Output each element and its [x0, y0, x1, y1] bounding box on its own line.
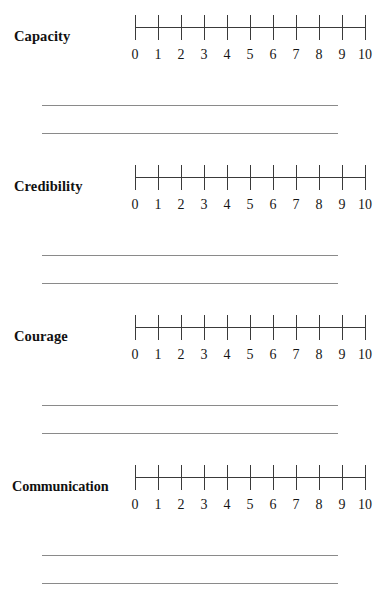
scale-ruler-capacity[interactable]	[135, 15, 367, 45]
ruler-tick-8[interactable]	[319, 165, 320, 190]
ruler-tick-6[interactable]	[273, 465, 274, 490]
ruler-tick-4[interactable]	[227, 15, 228, 40]
ruler-tick-7[interactable]	[296, 465, 297, 490]
ruler-tick-6[interactable]	[273, 165, 274, 190]
ruler-tick-3[interactable]	[204, 15, 205, 40]
ruler-tick-1[interactable]	[158, 315, 159, 340]
ruler-tick-3[interactable]	[204, 315, 205, 340]
ruler-tick-0[interactable]	[135, 165, 136, 190]
response-area-credibility[interactable]	[42, 238, 338, 294]
ruler-tick-10[interactable]	[365, 315, 366, 340]
ruler-tick-9[interactable]	[342, 315, 343, 340]
ruler-tick-2[interactable]	[181, 315, 182, 340]
scale-number-10: 10	[352, 347, 378, 363]
writing-line[interactable]	[42, 405, 338, 406]
ruler-tick-10[interactable]	[365, 165, 366, 190]
writing-line[interactable]	[42, 133, 338, 134]
writing-line[interactable]	[42, 105, 338, 106]
ruler-tick-0[interactable]	[135, 15, 136, 40]
ruler-tick-10[interactable]	[365, 465, 366, 490]
criterion-label-credibility: Credibility	[14, 174, 138, 198]
scale-numbers-courage: 0 1 2 3 4 5 6 7 8 9 10	[135, 347, 367, 367]
ruler-tick-4[interactable]	[227, 315, 228, 340]
writing-line[interactable]	[42, 583, 338, 584]
ruler-tick-6[interactable]	[273, 315, 274, 340]
ruler-tick-2[interactable]	[181, 465, 182, 490]
ruler-tick-8[interactable]	[319, 315, 320, 340]
scale-numbers-capacity: 0 1 2 3 4 5 6 7 8 9 10	[135, 47, 367, 67]
ruler-tick-7[interactable]	[296, 165, 297, 190]
writing-line[interactable]	[42, 433, 338, 434]
ruler-tick-6[interactable]	[273, 15, 274, 40]
ruler-tick-5[interactable]	[250, 165, 251, 190]
rating-block-capacity: Capacity 0 1 2 3 4 5 6 7 8 9 10	[0, 0, 387, 150]
rating-block-communication: Communication 0 1 2 3 4 5 6 7 8 9	[0, 450, 387, 600]
ruler-tick-2[interactable]	[181, 165, 182, 190]
ruler-tick-1[interactable]	[158, 465, 159, 490]
ruler-tick-4[interactable]	[227, 465, 228, 490]
scale-ruler-communication[interactable]	[135, 465, 367, 495]
ruler-tick-4[interactable]	[227, 165, 228, 190]
ruler-tick-2[interactable]	[181, 15, 182, 40]
ruler-tick-3[interactable]	[204, 165, 205, 190]
ruler-tick-0[interactable]	[135, 315, 136, 340]
scale-ruler-credibility[interactable]	[135, 165, 367, 195]
scale-number-10: 10	[352, 197, 378, 213]
ruler-tick-8[interactable]	[319, 15, 320, 40]
ruler-tick-9[interactable]	[342, 165, 343, 190]
worksheet-page: Capacity 0 1 2 3 4 5 6 7 8 9 10	[0, 0, 387, 601]
criterion-label-capacity: Capacity	[14, 24, 138, 48]
scale-numbers-communication: 0 1 2 3 4 5 6 7 8 9 10	[135, 497, 367, 517]
ruler-tick-10[interactable]	[365, 15, 366, 40]
writing-line[interactable]	[42, 555, 338, 556]
writing-line[interactable]	[42, 283, 338, 284]
ruler-tick-3[interactable]	[204, 465, 205, 490]
writing-line[interactable]	[42, 255, 338, 256]
ruler-tick-5[interactable]	[250, 465, 251, 490]
scale-number-10: 10	[352, 497, 378, 513]
scale-ruler-courage[interactable]	[135, 315, 367, 345]
ruler-tick-1[interactable]	[158, 15, 159, 40]
ruler-tick-1[interactable]	[158, 165, 159, 190]
ruler-tick-7[interactable]	[296, 15, 297, 40]
ruler-tick-7[interactable]	[296, 315, 297, 340]
rating-block-courage: Courage 0 1 2 3 4 5 6 7 8 9 10	[0, 300, 387, 450]
response-area-courage[interactable]	[42, 388, 338, 444]
response-area-capacity[interactable]	[42, 88, 338, 144]
rating-block-credibility: Credibility 0 1 2 3 4 5 6 7 8 9 1	[0, 150, 387, 300]
scale-number-10: 10	[352, 47, 378, 63]
criterion-label-communication: Communication	[12, 474, 140, 498]
ruler-tick-5[interactable]	[250, 315, 251, 340]
criterion-label-courage: Courage	[14, 324, 138, 348]
ruler-tick-5[interactable]	[250, 15, 251, 40]
response-area-communication[interactable]	[42, 538, 338, 594]
ruler-tick-9[interactable]	[342, 15, 343, 40]
ruler-tick-8[interactable]	[319, 465, 320, 490]
ruler-tick-0[interactable]	[135, 465, 136, 490]
scale-numbers-credibility: 0 1 2 3 4 5 6 7 8 9 10	[135, 197, 367, 217]
ruler-tick-9[interactable]	[342, 465, 343, 490]
